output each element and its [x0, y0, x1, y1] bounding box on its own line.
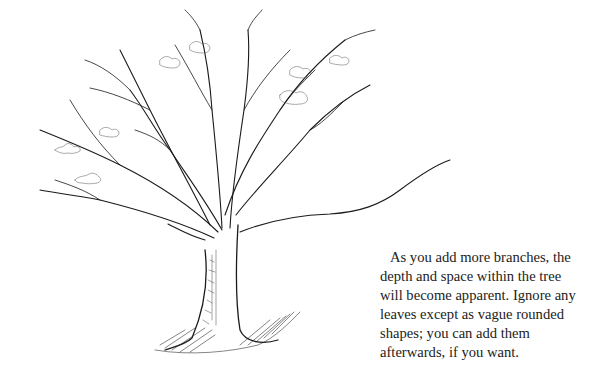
trunk [165, 225, 278, 350]
caption-line: As you add more branches, the [380, 248, 612, 267]
caption-line: depth and space within the tree [380, 267, 612, 286]
caption-line: will become apparent. Ignore any [380, 286, 612, 305]
secondary-branches [55, 10, 375, 200]
caption-line: leaves except as vague rounded [380, 305, 612, 324]
caption-line: shapes; you can add them [380, 324, 612, 343]
caption-line: afterwards, if you want. [380, 343, 612, 362]
caption: As you add more branches, the depth and … [380, 248, 612, 362]
foliage [55, 42, 349, 184]
main-branches [40, 30, 450, 240]
